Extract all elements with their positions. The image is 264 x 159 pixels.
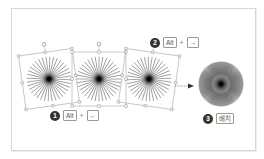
starburst-right[interactable] <box>117 39 182 111</box>
starburst-middle[interactable] <box>71 42 127 107</box>
alt-key: Alt <box>63 110 77 121</box>
step-badge-2: 2 <box>150 38 160 48</box>
result-starburst <box>196 59 246 109</box>
starburst-left[interactable] <box>16 39 81 111</box>
plus-sign: + <box>80 111 84 120</box>
step-badge-1: 1 <box>50 111 60 121</box>
step-1-label: 1 Alt + ← <box>50 110 99 121</box>
right-arrow-key-icon: → <box>187 37 200 48</box>
left-arrow-key-icon: ← <box>87 110 100 121</box>
arrow-right-icon <box>175 84 194 89</box>
arrange-label: 배치 <box>216 113 234 124</box>
step-2-label: 2 Alt + → <box>150 37 199 48</box>
step-badge-3: 3 <box>203 114 213 124</box>
plus-sign: + <box>180 38 184 47</box>
step-3-label: 3 배치 <box>203 113 234 124</box>
diagram-canvas <box>0 0 264 159</box>
alt-key: Alt <box>163 37 177 48</box>
